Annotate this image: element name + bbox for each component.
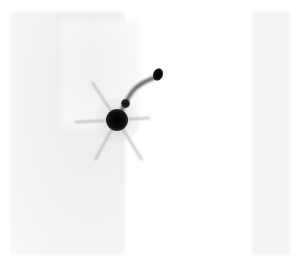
mid-focus [121,99,130,108]
scintigraphy-image [0,0,299,263]
main-focus [106,109,128,131]
star-artifact-streaks [0,0,299,263]
